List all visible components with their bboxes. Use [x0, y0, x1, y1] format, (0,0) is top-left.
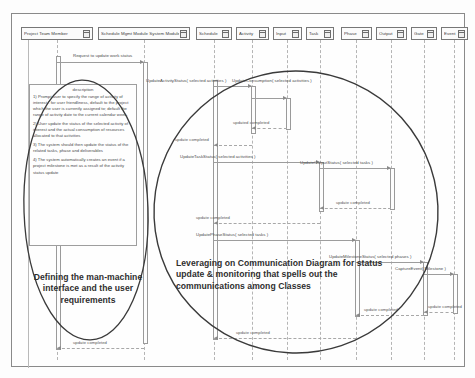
object-icon: [292, 30, 299, 38]
object-icon: [397, 30, 404, 38]
arrowhead-icon: [214, 221, 218, 225]
lifeline-head-gate[interactable]: Gate: [411, 27, 437, 40]
message-line-updated-completed-input: [252, 128, 287, 129]
annotation-right-text: Leveraging on Communication Diagram for …: [176, 258, 391, 292]
message-line-update-phase-status: [214, 240, 356, 241]
arrowhead-icon: [214, 143, 218, 147]
message-line-update-output-status: [320, 168, 391, 169]
note-title: description: [33, 87, 133, 92]
activation-schedule: [213, 80, 218, 340]
message-line-update-completed-task: [214, 223, 320, 224]
arrowhead-icon: [140, 60, 144, 64]
message-line-update-consumption: [252, 98, 287, 99]
message-label-capture-event: CaptureEvent( Milestone ): [395, 266, 446, 271]
message-line-update-completed-activity: [214, 145, 252, 146]
lifeline-label: Input: [276, 31, 291, 36]
arrowhead-icon: [248, 84, 252, 88]
message-label-update-completed-output: update completed: [336, 200, 370, 205]
lifeline-label: Gate: [414, 31, 426, 36]
lifeline-head-schedule[interactable]: Schedule: [196, 27, 232, 40]
object-icon: [324, 30, 331, 38]
annotation-left-text: Defining the man-machine interface and t…: [32, 272, 144, 306]
object-icon: [222, 30, 229, 38]
lifeline-label: Event: [444, 31, 457, 36]
message-label-updated-completed-input: updated completed: [233, 120, 269, 125]
lifeline-head-output[interactable]: Output: [376, 27, 407, 40]
arrowhead-icon: [320, 206, 324, 210]
lifeline-label: Schedule: [199, 31, 221, 36]
message-line-update-completed-final: [57, 348, 144, 349]
message-line-update-completed-output: [320, 208, 391, 209]
message-label-update-task-status: UpdateTaskStatus( selected activities ): [180, 154, 255, 159]
activation-output: [390, 168, 395, 210]
lifeline-head-input[interactable]: Input: [273, 27, 302, 40]
object-icon: [180, 30, 187, 38]
lifeline-head-event[interactable]: Event: [441, 27, 468, 40]
lifeline-head-task[interactable]: Task: [306, 27, 334, 40]
message-line-update-completed-gate: [356, 315, 424, 316]
activation-task: [319, 162, 324, 212]
sequence-diagram-canvas: Project Team Member Schedule Mgmt Module…: [0, 0, 475, 378]
arrowhead-icon: [387, 166, 391, 170]
object-icon: [362, 30, 369, 38]
description-note: description 1) Prompt user to specify th…: [29, 84, 137, 246]
arrowhead-icon: [214, 336, 218, 340]
lifeline-label: Task: [309, 31, 323, 36]
object-icon: [259, 30, 266, 38]
lifeline-head-project-team-member[interactable]: Project Team Member: [21, 27, 93, 40]
lifeline-input: [287, 40, 288, 360]
message-label-update-completed-phase: update completed: [236, 330, 270, 335]
note-line-4: 4) The system automatically creates an e…: [33, 157, 133, 175]
lifeline-head-schedule-mgmt-module[interactable]: Schedule Mgmt Module System Module: [98, 27, 190, 40]
lifeline-label: Output: [379, 31, 396, 36]
message-label-request-update: Request to update work status: [73, 53, 132, 58]
object-icon: [458, 30, 465, 38]
message-label-update-completed-event: update completed: [428, 304, 462, 309]
lifeline-label: Phase: [344, 31, 361, 36]
lifeline-label: Activity: [239, 31, 258, 36]
object-icon: [83, 30, 90, 38]
lifeline-head-activity[interactable]: Activity: [236, 27, 269, 40]
activation-input: [286, 98, 291, 130]
lifeline-label: Schedule Mgmt Module System Module: [101, 31, 179, 36]
note-line-3: 3) The system should then update the sta…: [33, 142, 133, 154]
message-line-update-completed-event: [424, 312, 454, 313]
lifeline-head-phase[interactable]: Phase: [341, 27, 372, 40]
message-label-update-completed-gate: update completed: [364, 307, 398, 312]
lifeline-label: Project Team Member: [24, 31, 82, 36]
message-label-update-completed-task: update completed: [196, 215, 230, 220]
note-line-1: 1) Prompt user to specify the range of a…: [33, 94, 133, 118]
message-label-update-activity-status: UpdateActivityStatus( selected activitie…: [146, 78, 226, 83]
note-line-2: 2) User update the status of the selecte…: [33, 121, 133, 139]
arrowhead-icon: [420, 260, 424, 264]
message-label-update-phase-status: UpdatePhaseStatus( selected tasks ): [196, 232, 268, 237]
message-line-request-update: [57, 62, 144, 63]
arrowhead-icon: [57, 346, 61, 350]
arrowhead-icon: [424, 310, 428, 314]
message-label-update-output-status: UpdateOutputStatus( selected tasks ): [300, 160, 373, 165]
message-label-update-consumption: UpdateConsumption( selected activities ): [232, 78, 312, 83]
arrowhead-icon: [352, 238, 356, 242]
arrowhead-icon: [450, 272, 454, 276]
message-line-update-activity-status: [214, 86, 252, 87]
arrowhead-icon: [252, 126, 256, 130]
message-label-update-completed-final: update completed: [73, 340, 107, 345]
message-line-update-completed-phase: [214, 338, 356, 339]
object-icon: [427, 30, 434, 38]
message-label-update-completed-activity: update completed: [175, 137, 209, 142]
arrowhead-icon: [283, 96, 287, 100]
arrowhead-icon: [356, 313, 360, 317]
